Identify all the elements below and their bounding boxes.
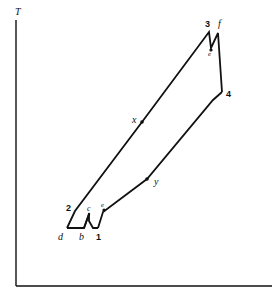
cycle-upper-line xyxy=(67,32,222,228)
label-1: 1 xyxy=(96,232,101,242)
label-e-high: e xyxy=(208,50,211,58)
label-b: b xyxy=(79,231,84,242)
point-c-dot xyxy=(88,213,90,215)
label-c: c xyxy=(87,204,91,213)
point-y-dot xyxy=(145,177,149,181)
y-axis-label: T xyxy=(15,6,22,17)
label-y: y xyxy=(153,176,159,187)
label-3: 3 xyxy=(205,19,210,29)
label-f: f xyxy=(218,18,222,29)
label-x: x xyxy=(131,114,137,125)
label-e-low: e xyxy=(101,201,104,209)
label-d: d xyxy=(58,231,64,242)
t-s-diagram: T 3 f e 4 x y 2 c e d b 1 xyxy=(0,0,275,293)
label-2: 2 xyxy=(66,203,71,213)
point-x-dot xyxy=(140,120,144,124)
label-4: 4 xyxy=(226,89,231,99)
cycle-lower-line xyxy=(98,92,222,228)
